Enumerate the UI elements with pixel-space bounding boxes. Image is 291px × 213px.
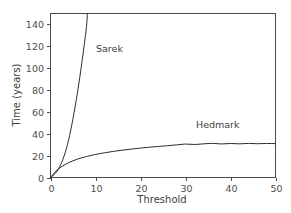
y-tick-label: 120 (26, 41, 44, 52)
y-tick-label: 20 (32, 151, 44, 162)
series-annotation-sarek: Sarek (96, 43, 123, 54)
x-tick-label: 20 (135, 183, 147, 194)
series-line-hedmark (51, 143, 276, 177)
line-chart: 020406080100120140 01020304050 Sarek Hed… (0, 0, 291, 213)
x-tick-label: 30 (180, 183, 192, 194)
y-tick-label: 140 (26, 19, 44, 30)
x-tick-label: 50 (270, 183, 282, 194)
plot-frame (51, 14, 276, 178)
series-line-sarek (51, 14, 88, 178)
y-axis-tick-labels: 020406080100120140 (26, 19, 44, 184)
series-paths (51, 14, 276, 178)
x-axis-tick-labels: 01020304050 (48, 183, 282, 194)
x-tick-label: 40 (225, 183, 237, 194)
x-axis-ticks (52, 178, 277, 182)
chart-figure: 020406080100120140 01020304050 Sarek Hed… (0, 0, 291, 213)
series-annotation-hedmark: Hedmark (196, 119, 240, 130)
x-tick-label: 0 (48, 183, 54, 194)
y-tick-label: 80 (32, 85, 44, 96)
x-tick-label: 10 (90, 183, 102, 194)
y-tick-label: 0 (38, 173, 44, 184)
y-axis-ticks (47, 25, 51, 179)
x-axis-title: Threshold (136, 194, 186, 205)
y-axis-title: Time (years) (11, 63, 22, 127)
y-tick-label: 60 (32, 107, 44, 118)
y-tick-label: 40 (32, 129, 44, 140)
y-tick-label: 100 (26, 63, 44, 74)
